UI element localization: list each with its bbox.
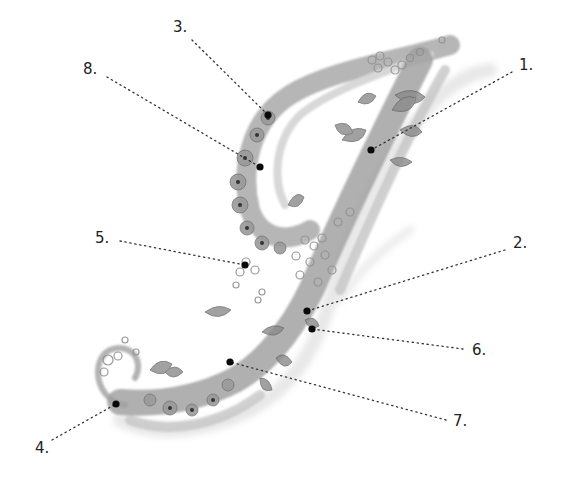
callout-dot-2 [303, 307, 310, 314]
leader-line-8 [107, 77, 260, 167]
callout-label-7: 7. [453, 414, 467, 429]
callout-dot-3 [264, 111, 271, 118]
callout-label-8: 8. [83, 62, 97, 77]
leader-line-5 [120, 241, 245, 265]
leader-line-3 [192, 40, 268, 115]
callout-label-6: 6. [472, 343, 486, 358]
leader-line-4 [52, 404, 116, 440]
callout-label-3: 3. [173, 20, 187, 35]
callout-label-5: 5. [95, 231, 109, 246]
callout-dot-4 [112, 400, 119, 407]
callout-dot-8 [256, 163, 263, 170]
callout-label-2: 2. [513, 236, 527, 251]
callout-dot-1 [367, 146, 374, 153]
labeled-illustration: 1. 2. 3. 4. 5. 6. 7. 8. [0, 0, 565, 496]
callout-dot-5 [241, 261, 248, 268]
callout-label-4: 4. [35, 441, 49, 456]
callout-dot-7 [226, 358, 233, 365]
callout-dot-6 [308, 325, 315, 332]
leader-line-6 [312, 329, 463, 349]
callout-label-1: 1. [519, 58, 533, 73]
